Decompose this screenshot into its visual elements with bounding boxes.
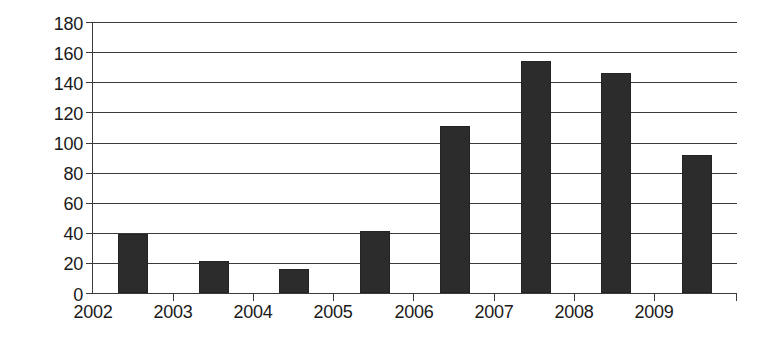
x-tick-label-2005: 2005 xyxy=(293,303,373,321)
y-tick-label-40: 40 xyxy=(31,225,83,243)
grid-line-40 xyxy=(93,233,737,234)
bar-chart: 180 160 140 120 100 80 60 40 20 0 xyxy=(0,0,768,345)
x-tick-mark-7 xyxy=(654,293,655,301)
bar-2005 xyxy=(360,231,390,293)
y-tick-label-180: 180 xyxy=(31,15,83,33)
y-tick-label-80: 80 xyxy=(31,165,83,183)
grid-line-100 xyxy=(93,143,737,144)
bar-2009 xyxy=(682,155,712,294)
grid-line-160 xyxy=(93,52,737,53)
x-tick-mark-5 xyxy=(494,293,495,301)
grid-line-20 xyxy=(93,263,737,264)
x-tick-mark-2 xyxy=(253,293,254,301)
grid-line-baseline-0 xyxy=(93,293,737,294)
grid-line-180 xyxy=(93,22,737,23)
bar-2003 xyxy=(199,261,229,293)
x-tick-label-2006: 2006 xyxy=(374,303,454,321)
x-tick-mark-4 xyxy=(413,293,414,301)
y-tick-label-160: 160 xyxy=(31,45,83,63)
y-tick-label-120: 120 xyxy=(31,105,83,123)
y-axis-tick-labels: 180 160 140 120 100 80 60 40 20 0 xyxy=(0,0,83,345)
y-tick-label-60: 60 xyxy=(31,195,83,213)
bar-2004 xyxy=(279,269,309,293)
x-tick-label-2009: 2009 xyxy=(614,303,694,321)
bar-2002 xyxy=(118,234,148,293)
grid-line-120 xyxy=(93,112,737,113)
y-tick-label-140: 140 xyxy=(31,75,83,93)
y-tick-label-100: 100 xyxy=(31,135,83,153)
grid-line-140 xyxy=(93,82,737,83)
x-tick-label-2008: 2008 xyxy=(534,303,614,321)
plot-area xyxy=(93,22,737,293)
x-tick-mark-3 xyxy=(333,293,334,301)
bar-2008 xyxy=(601,73,631,293)
grid-line-60 xyxy=(93,203,737,204)
x-tick-label-2004: 2004 xyxy=(213,303,293,321)
x-tick-mark-1 xyxy=(173,293,174,301)
y-tick-label-20: 20 xyxy=(31,255,83,273)
x-tick-mark-8 xyxy=(736,293,737,301)
bar-2006 xyxy=(440,126,470,293)
x-tick-label-2003: 2003 xyxy=(133,303,213,321)
x-tick-label-2002: 2002 xyxy=(53,303,133,321)
bar-2007 xyxy=(521,61,551,293)
grid-line-80 xyxy=(93,173,737,174)
x-tick-mark-6 xyxy=(574,293,575,301)
x-tick-label-2007: 2007 xyxy=(454,303,534,321)
